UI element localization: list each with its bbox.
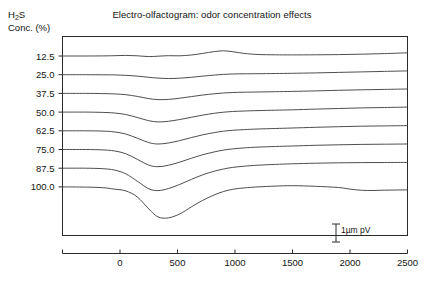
trace-line [63, 144, 408, 167]
x-tick-label: 1500 [282, 257, 303, 268]
data-traces [63, 51, 408, 218]
y-tick-label: 87.5 [36, 163, 55, 174]
y-tick-label: 25.0 [36, 69, 55, 80]
x-tick-label: 0 [117, 257, 122, 268]
trace-line [63, 126, 408, 144]
y-tick-label: 12.5 [36, 51, 55, 62]
scale-bar-label: 1µm pV [341, 225, 370, 235]
x-tick-label: 1000 [224, 257, 245, 268]
chart-container: H2S Conc. (%) Electro-olfactogram: odor … [0, 0, 424, 281]
plot-frame [63, 37, 408, 236]
y-tick-label: 100.0 [31, 181, 55, 192]
trace-line [63, 71, 408, 79]
y-tick-label: 62.5 [36, 125, 55, 136]
trace-line [63, 107, 408, 122]
trace-line [63, 162, 408, 190]
plot-area: 05001000150020002500 12.525.037.550.062.… [0, 0, 424, 281]
trace-line [63, 186, 408, 219]
x-tick-label: 2000 [339, 257, 360, 268]
y-axis-ticks [59, 56, 63, 187]
y-tick-label: 50.0 [36, 107, 55, 118]
trace-line [63, 89, 408, 100]
x-axis-ticks [63, 250, 408, 254]
x-tick-label: 500 [170, 257, 186, 268]
y-tick-label: 37.5 [36, 88, 55, 99]
y-tick-label: 75.0 [36, 144, 55, 155]
x-axis-tick-labels: 05001000150020002500 [117, 257, 418, 268]
y-axis-tick-labels: 12.525.037.550.062.575.087.5100.0 [31, 51, 55, 193]
trace-line [63, 51, 408, 57]
x-tick-label: 2500 [397, 257, 418, 268]
scale-bar-icon [332, 224, 340, 242]
